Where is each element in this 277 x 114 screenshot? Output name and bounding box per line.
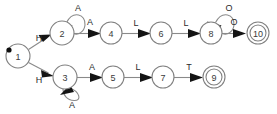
arrow-head-icon [233,29,246,38]
node-label: 2 [59,29,64,39]
state-node-3[interactable]: 3 [53,65,77,89]
arrow-head-icon [90,73,103,82]
state-node-9-accepting[interactable]: 9 [203,66,225,88]
node-label: 9 [211,73,216,83]
edge-labels-layer: H H A A L L O O A A L T [36,3,238,110]
arrow-head-icon [190,73,203,82]
state-machine-diagram: 1 2 3 4 5 6 [0,0,277,114]
state-node-8[interactable]: 8 [200,22,222,44]
arrow-head-icon [188,29,201,38]
arrow-head-icon [138,29,151,38]
edge-label-2-4: A [87,17,93,27]
state-node-2[interactable]: 2 [50,21,74,45]
node-label: 4 [108,29,113,39]
edge-label-2-2: A [75,3,81,13]
edge-label-6-8: L [183,18,188,28]
state-node-6[interactable]: 6 [150,22,172,44]
node-label: 5 [110,73,115,83]
edge-label-1-3: H [36,75,43,85]
state-node-10-accepting[interactable]: 10 [247,22,269,44]
edge-label-3-5: A [89,62,95,72]
state-node-4[interactable]: 4 [100,22,122,44]
edge-4-to-6[interactable] [122,29,151,38]
node-label: 3 [62,73,67,83]
edge-label-3-3: A [69,100,75,110]
node-label: 1 [15,52,20,62]
edge-label-5-7: L [135,62,140,72]
arrow-head-icon [88,29,101,38]
edge-2-to-4[interactable] [74,29,101,38]
edge-label-8-8: O [225,3,232,13]
diagram-canvas: 1 2 3 4 5 6 [0,0,277,114]
edge-7-to-9[interactable] [174,73,203,82]
arrow-head-icon [140,73,153,82]
edge-5-to-7[interactable] [124,73,153,82]
edge-label-7-9: T [186,62,192,72]
edge-label-1-2: H [36,33,43,43]
node-label: 8 [208,29,213,39]
edge-3-to-5[interactable] [77,73,103,82]
arrow-head-icon [41,70,54,78]
state-node-7[interactable]: 7 [152,66,174,88]
edge-label-8-10: O [230,17,237,27]
state-node-1[interactable]: 1 [6,44,30,68]
node-label: 7 [160,73,165,83]
edge-label-4-6: L [133,18,138,28]
edge-6-to-8[interactable] [172,29,201,38]
state-node-5[interactable]: 5 [102,66,124,88]
edge-8-to-10[interactable] [222,29,246,38]
node-label: 10 [253,29,263,39]
node-label: 6 [158,29,163,39]
start-state-dot-icon [6,47,11,52]
nodes-layer: 1 2 3 4 5 6 [6,21,269,89]
edge-line [29,63,49,74]
